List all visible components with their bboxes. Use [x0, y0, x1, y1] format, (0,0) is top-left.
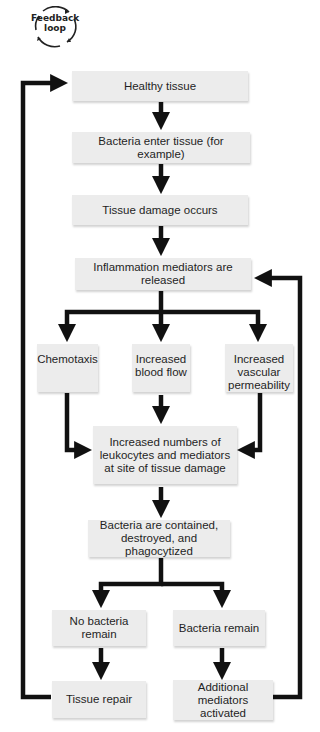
node-label: No bacteria remain	[55, 615, 143, 641]
node-label: Bacteria remain	[179, 622, 260, 635]
node-vascular-permeability: Increased vascular permeability	[225, 344, 293, 392]
arrow-contained-to-bacteriaremain	[161, 584, 222, 600]
node-label: Inflammation mediators are released	[78, 261, 248, 287]
node-tissue-damage: Tissue damage occurs	[72, 195, 248, 225]
node-label: Increased numbers of leukocytes and medi…	[100, 436, 230, 475]
node-healthy-tissue: Healthy tissue	[72, 71, 248, 101]
feedback-arrow-additional-to-mediators	[262, 278, 300, 697]
arrow-mediators-to-vascular	[161, 312, 258, 334]
node-increased-blood-flow: Increased blood flow	[132, 344, 190, 392]
arrow-vascular-to-leukocytes	[245, 393, 260, 450]
node-label: Increased vascular permeability	[228, 353, 290, 392]
node-bacteria-remain: Bacteria remain	[173, 610, 265, 646]
node-chemotaxis: Chemotaxis	[37, 344, 98, 392]
node-label: Bacteria enter tissue (for example)	[75, 135, 247, 161]
node-mediators-released: Inflammation mediators are released	[75, 258, 251, 290]
node-label: Increased blood flow	[135, 353, 187, 379]
node-label: Healthy tissue	[124, 80, 196, 93]
arrow-chemotaxis-to-leukocytes	[67, 393, 84, 450]
node-label: Tissue repair	[66, 693, 132, 706]
arrow-contained-to-nobacteria	[101, 558, 161, 600]
feedback-loop-label: Feedback loop	[31, 13, 79, 33]
node-bacteria-enter-tissue: Bacteria enter tissue (for example)	[72, 132, 250, 163]
node-label: Tissue damage occurs	[102, 204, 217, 217]
node-tissue-repair: Tissue repair	[52, 681, 146, 718]
arrow-mediators-to-chemotaxis	[67, 312, 161, 334]
node-bacteria-contained: Bacteria are contained, destroyed, and p…	[88, 520, 230, 557]
node-no-bacteria-remain: No bacteria remain	[52, 610, 146, 646]
node-label: Bacteria are contained, destroyed, and p…	[91, 519, 227, 558]
node-additional-mediators: Additional mediators activated	[173, 680, 273, 720]
node-label: Chemotaxis	[37, 353, 98, 366]
node-label: Additional mediators activated	[176, 681, 270, 720]
node-increased-leukocytes: Increased numbers of leukocytes and medi…	[93, 426, 237, 484]
